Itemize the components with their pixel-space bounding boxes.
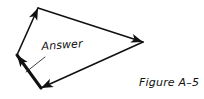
arrowhead-bottom-icon <box>39 79 54 92</box>
figure-caption: Figure A–5 <box>139 76 199 89</box>
answer-leader-line <box>26 57 45 72</box>
vector-top-edge <box>38 8 143 42</box>
figure-page: Answer Figure A–5 <box>0 0 204 99</box>
